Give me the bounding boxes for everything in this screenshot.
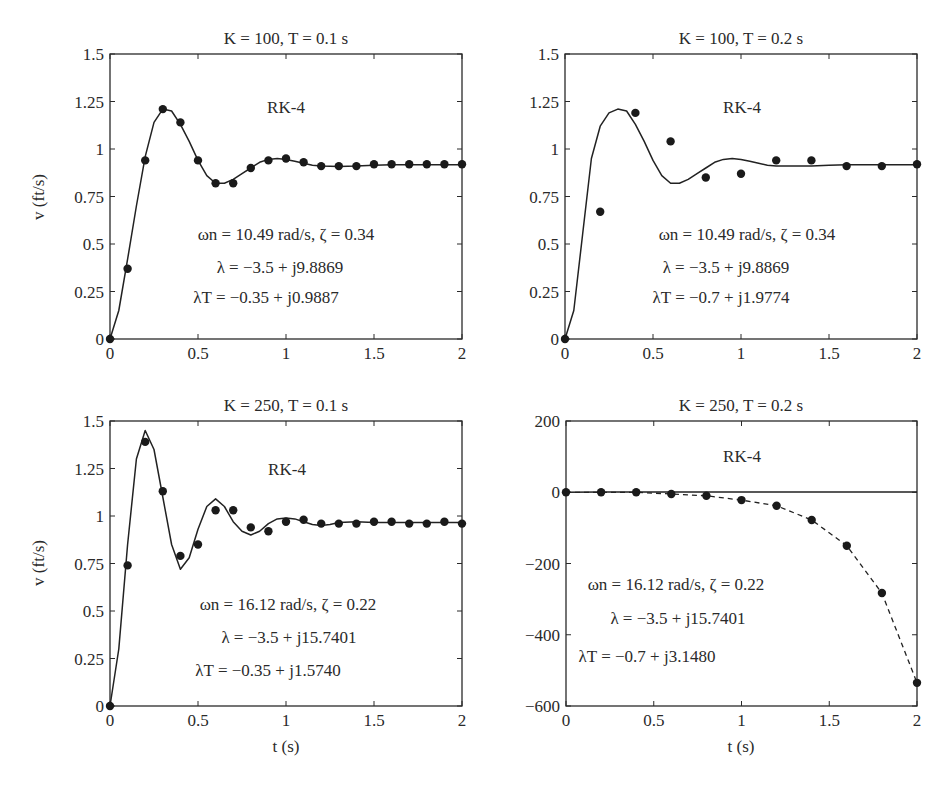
rk4-data-point: [247, 164, 255, 172]
rk4-data-point: [317, 162, 325, 170]
rk4-data-point: [596, 208, 604, 216]
x-tick-label: 0: [106, 344, 115, 363]
y-tick-label: −400: [525, 626, 560, 645]
rk4-data-point: [159, 105, 167, 113]
rk4-data-point: [808, 516, 816, 524]
x-axis-label: t (s): [728, 737, 755, 756]
rk4-data-point: [176, 118, 184, 126]
annotation-line-1: ωn = 16.12 rad/s, ζ = 0.22: [200, 595, 377, 614]
y-tick-label: 1: [551, 140, 560, 159]
rk4-data-point: [423, 160, 431, 168]
x-tick-label: 2: [458, 344, 467, 363]
y-tick-label: 0.75: [74, 188, 104, 207]
rk4-data-point: [631, 109, 639, 117]
y-tick-label: 0: [552, 483, 561, 502]
y-tick-label: 0.5: [83, 235, 104, 254]
y-tick-label: 0.25: [74, 283, 104, 302]
annotation-line-1: ωn = 10.49 rad/s, ζ = 0.34: [659, 225, 836, 244]
rk4-data-point: [335, 519, 343, 527]
rk4-data-point: [632, 488, 640, 496]
annotation-line-3: λT = −0.7 + j3.1480: [579, 647, 716, 666]
rk4-data-point: [440, 160, 448, 168]
subplot-k250-t01: K = 250, T = 0.1 s RK-4 ωn = 16.12 rad/s…: [29, 396, 466, 756]
rk4-data-point: [843, 541, 851, 549]
annotation-line-3: λT = −0.7 + j1.9774: [653, 288, 790, 307]
rk4-data-point: [229, 506, 237, 514]
rk4-data-point: [335, 162, 343, 170]
rk4-data-point: [194, 156, 202, 164]
rk4-data-point: [229, 179, 237, 187]
y-tick-label: 0.5: [538, 235, 559, 254]
x-tick-label: 1: [737, 344, 746, 363]
method-label: RK-4: [723, 98, 761, 117]
x-tick-label: 2: [458, 711, 467, 730]
rk4-data-point: [405, 519, 413, 527]
rk4-data-point: [423, 519, 431, 527]
annotation-line-3: λT = −0.35 + j1.5740: [195, 661, 340, 680]
rk4-data-point: [913, 160, 921, 168]
rk4-data-point: [440, 518, 448, 526]
rk4-data-point: [702, 173, 710, 181]
subplot-title: K = 100, T = 0.2 s: [679, 29, 803, 48]
rk4-data-point: [299, 516, 307, 524]
y-tick-label: 0: [96, 697, 105, 716]
x-tick-label: 0: [562, 711, 571, 730]
method-label: RK-4: [267, 98, 305, 117]
y-axis-label: v (ft/s): [29, 174, 48, 220]
rk4-data-point: [211, 179, 219, 187]
rk4-data-point: [878, 589, 886, 597]
subplot-title: K = 100, T = 0.1 s: [224, 29, 348, 48]
rk4-data-point: [264, 527, 272, 535]
rk4-data-point: [913, 679, 921, 687]
x-tick-label: 0: [106, 711, 115, 730]
x-axis-label: t (s): [273, 737, 300, 756]
figure: K = 100, T = 0.1 s RK-4 ωn = 10.49 rad/s…: [0, 0, 943, 785]
annotation-line-2: λ = −3.5 + j9.8869: [663, 258, 790, 277]
rk4-data-point: [211, 506, 219, 514]
x-tick-label: 1.5: [819, 711, 840, 730]
rk4-data-point: [405, 160, 413, 168]
rk4-data-point: [667, 490, 675, 498]
rk4-data-point: [282, 518, 290, 526]
y-tick-label: 0.75: [74, 555, 104, 574]
rk4-data-point: [737, 496, 745, 504]
y-tick-label: 0.5: [83, 602, 104, 621]
x-tick-label: 2: [913, 344, 922, 363]
rk4-data-point: [352, 519, 360, 527]
y-tick-label: 0.75: [529, 188, 559, 207]
subplot-k250-t02: K = 250, T = 0.2 s RK-4 ωn = 16.12 rad/s…: [525, 396, 921, 756]
x-tick-label: 1: [282, 711, 291, 730]
x-tick-label: 1: [282, 344, 291, 363]
y-tick-label: 1.5: [83, 412, 104, 431]
rk4-data-point: [737, 170, 745, 178]
y-axis-label: v (ft/s): [29, 540, 48, 586]
y-tick-label: 1: [96, 140, 105, 159]
rk4-data-point: [370, 160, 378, 168]
rk4-data-point: [562, 488, 570, 496]
annotation-line-2: λ = −3.5 + j15.7401: [221, 628, 356, 647]
rk4-data-point: [159, 487, 167, 495]
rk4-data-point: [282, 154, 290, 162]
y-tick-label: 0: [551, 330, 560, 349]
rk4-data-point: [702, 492, 710, 500]
rk4-data-point: [878, 162, 886, 170]
rk4-data-point: [387, 518, 395, 526]
annotation-line-1: ωn = 10.49 rad/s, ζ = 0.34: [198, 225, 375, 244]
rk4-data-point: [141, 156, 149, 164]
y-tick-label: 0.25: [74, 650, 104, 669]
rk4-data-point: [123, 561, 131, 569]
x-tick-label: 1.5: [363, 344, 384, 363]
y-tick-label: 1.5: [83, 45, 104, 64]
y-tick-label: 1.25: [529, 93, 559, 112]
rk4-data-point: [387, 160, 395, 168]
rk4-data-point: [106, 702, 114, 710]
method-label: RK-4: [268, 460, 306, 479]
subplot-title: K = 250, T = 0.1 s: [224, 396, 348, 415]
rk4-data-point: [106, 335, 114, 343]
subplot-k100-t02: K = 100, T = 0.2 s RK-4 ωn = 10.49 rad/s…: [529, 29, 921, 363]
x-tick-label: 1.5: [363, 711, 384, 730]
rk4-data-point: [247, 523, 255, 531]
rk4-data-point: [666, 137, 674, 145]
rk4-data-point: [264, 156, 272, 164]
rk4-data-point: [561, 335, 569, 343]
